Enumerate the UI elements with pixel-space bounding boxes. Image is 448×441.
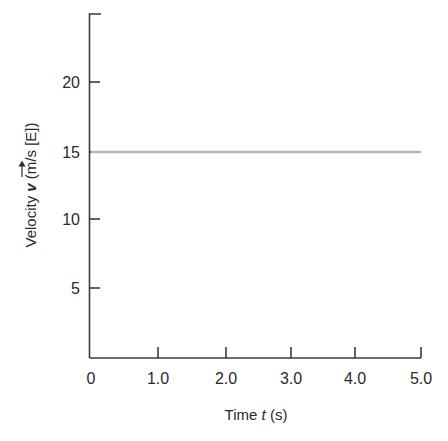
y-axis-title-suffix: (m/s [E]) — [22, 122, 39, 183]
y-tick-labels: 20 15 10 5 — [62, 74, 80, 297]
svg-text:Velocity v (m/s [E]): Velocity v (m/s [E]) — [22, 122, 39, 247]
x-tick-label: 3.0 — [280, 370, 302, 387]
y-tick-label: 5 — [71, 280, 80, 297]
x-tick-label: 0 — [87, 370, 96, 387]
y-tick-label: 10 — [62, 211, 80, 228]
x-tick-label: 4.0 — [344, 370, 366, 387]
x-tick-labels: 0 1.0 2.0 3.0 4.0 5.0 — [87, 370, 433, 387]
x-tick-label: 2.0 — [215, 370, 237, 387]
y-axis-title: Velocity v (m/s [E]) — [22, 122, 39, 247]
y-tick-label: 15 — [62, 144, 80, 161]
x-tick-label: 5.0 — [410, 370, 432, 387]
y-axis — [90, 14, 102, 358]
axes — [90, 14, 422, 358]
x-tick-label: 1.0 — [147, 370, 169, 387]
y-tick-label: 20 — [62, 74, 80, 91]
x-axis-title: Time t (s) — [225, 406, 288, 423]
y-axis-title-prefix: Velocity — [22, 192, 39, 248]
chart: 20 15 10 5 0 1.0 2.0 3.0 4.0 5.0 Time t … — [0, 0, 448, 441]
x-axis-title-prefix: Time — [225, 406, 262, 423]
x-axis-title-suffix: (s) — [266, 406, 288, 423]
